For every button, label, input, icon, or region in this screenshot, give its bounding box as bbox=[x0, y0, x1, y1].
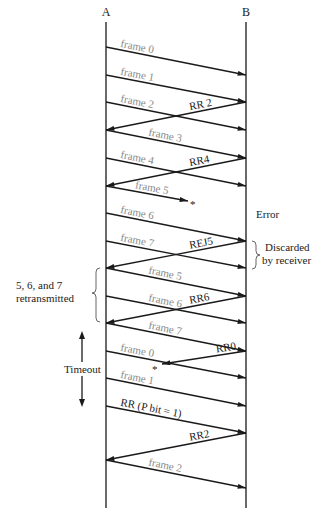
label-rrpoll: RR (P bit = 1) bbox=[119, 396, 183, 421]
label-frame7: frame 7 bbox=[120, 231, 156, 249]
timeout-down-arrow-icon bbox=[79, 399, 85, 407]
message-arrows bbox=[106, 47, 246, 488]
discarded-label-line2: by receiver bbox=[262, 254, 311, 266]
discarded-brace bbox=[252, 241, 260, 269]
timeout-label: Timeout bbox=[64, 363, 101, 375]
discarded-label-line1: Discarded bbox=[265, 241, 310, 253]
label-frame1: frame 1 bbox=[120, 65, 156, 83]
arrow-rr2b bbox=[106, 433, 246, 460]
error-label: Error bbox=[256, 208, 280, 220]
station-a-label: A bbox=[102, 5, 111, 19]
station-b-label: B bbox=[242, 5, 250, 19]
sequence-diagram: A B frame 0frame 1frame 2RR 2frame 3fram… bbox=[0, 0, 332, 525]
timeout-up-arrow-icon bbox=[79, 331, 85, 339]
label-frame0b: frame 0 bbox=[120, 341, 156, 359]
retransmitted-label-line1: 5, 6, and 7 bbox=[16, 279, 63, 291]
arrow-rr0 bbox=[162, 351, 246, 364]
label-frame5: frame 5 bbox=[134, 178, 170, 196]
label-frame6r: frame 6 bbox=[148, 291, 184, 309]
lost-marker-frame5: * bbox=[190, 198, 196, 210]
retransmitted-label-line2: retransmitted bbox=[16, 292, 75, 304]
retransmitted-brace bbox=[92, 268, 100, 322]
